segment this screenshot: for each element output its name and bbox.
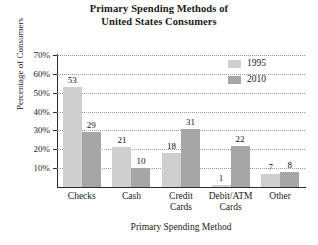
chart-title-line-2: United States Consumers xyxy=(0,16,318,29)
bar-value-label-1995-checks: 53 xyxy=(60,76,85,85)
y-tick-label-60: 60% xyxy=(8,70,50,79)
x-axis-title: Primary Spending Method xyxy=(57,222,305,232)
legend-item-2010: 2010 xyxy=(228,73,302,87)
y-tick-label-30: 30% xyxy=(8,126,50,135)
gridline-70 xyxy=(57,55,305,56)
y-tick-label-70: 70% xyxy=(8,51,50,60)
chart-title: Primary Spending Methods of United State… xyxy=(0,3,318,28)
legend-item-1995: 1995 xyxy=(228,57,302,71)
category-label-other: Other xyxy=(249,191,311,202)
bar-2010-cash xyxy=(131,168,150,187)
category-label-line: Other xyxy=(249,191,311,202)
legend-swatch-icon-2010 xyxy=(228,76,241,84)
bar-1995-cash xyxy=(112,147,131,187)
bar-value-label-2010-checks: 29 xyxy=(79,121,104,130)
bar-value-label-2010-creditcards: 31 xyxy=(178,118,203,127)
bar-2010-creditcards xyxy=(181,129,200,187)
bar-1995-other xyxy=(261,174,280,187)
bar-1995-checks xyxy=(63,87,82,187)
gridline-50 xyxy=(57,93,305,94)
y-tick-label-40: 40% xyxy=(8,108,50,117)
bar-2010-checks xyxy=(82,132,101,187)
category-label-line: Cards xyxy=(200,202,262,213)
legend: 1995 2010 xyxy=(228,57,302,89)
gridline-40 xyxy=(57,112,305,113)
bar-2010-other xyxy=(280,172,299,187)
bar-value-label-1995-debitatmcards: 1 xyxy=(209,174,234,183)
legend-label-1995: 1995 xyxy=(247,57,266,70)
bar-1995-creditcards xyxy=(162,153,181,187)
legend-label-2010: 2010 xyxy=(247,73,266,86)
legend-swatch-icon-1995 xyxy=(228,60,241,68)
bar-value-label-2010-debitatmcards: 22 xyxy=(228,135,253,144)
bar-value-label-1995-cash: 21 xyxy=(109,136,134,145)
y-tick-label-10: 10% xyxy=(8,164,50,173)
x-axis-line xyxy=(57,187,306,188)
y-tick-label-50: 50% xyxy=(8,89,50,98)
y-tick-label-20: 20% xyxy=(8,145,50,154)
bar-value-label-2010-other: 8 xyxy=(277,161,302,170)
chart-title-line-1: Primary Spending Methods of xyxy=(0,3,318,16)
bar-value-label-2010-cash: 10 xyxy=(128,157,153,166)
bar-1995-debitatmcards xyxy=(212,185,231,187)
bar-value-label-1995-creditcards: 18 xyxy=(159,142,184,151)
bar-chart: Primary Spending Methods of United State… xyxy=(0,0,318,245)
